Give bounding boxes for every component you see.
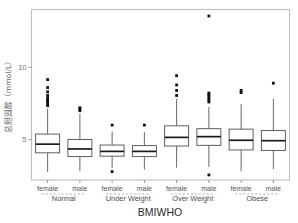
outlier-point [46,97,49,100]
x-tick-label-male-1: male [72,185,87,192]
outlier-point [46,86,49,89]
outlier-point [175,74,178,77]
outlier-point [207,92,210,95]
outlier-point [46,78,49,81]
boxplot-svg: 510 femalemalefemalemalefemalemalefemale… [0,0,298,223]
x-tick-label-female-6: female [231,185,252,192]
x-group-label-under-weight: Under Weight [106,194,151,203]
outlier-point [175,84,178,87]
outlier-point [207,15,210,18]
x-tick-label-female-2: female [102,185,123,192]
x-tick-label-female-0: female [37,185,58,192]
outlier-point [240,89,243,92]
y-tick-label: 5 [22,135,26,144]
x-group-label-over-weight: Over Weight [172,194,213,203]
x-tick-label-male-7: male [266,185,281,192]
box-iqr [165,126,189,146]
x-group-label-normal: Normal [52,194,76,203]
x-tick-label-male-3: male [137,185,152,192]
y-tick-label: 10 [18,63,26,72]
x-tick-label-female-4: female [166,185,187,192]
x-tick-label-male-5: male [201,185,216,192]
boxplot-chart: 510 femalemalefemalemalefemalemalefemale… [0,0,298,223]
x-group-label-obese: Obese [246,194,268,203]
outlier-point [78,106,81,109]
y-axis-title: 总胆固醇（mmol/L） [3,57,13,133]
outlier-point [111,170,114,173]
outlier-point [46,94,49,97]
outlier-point [111,124,114,127]
outlier-point [207,174,210,177]
x-axis-title: BMIWHO [138,206,182,218]
outlier-point [46,90,49,93]
outlier-point [175,89,178,92]
outlier-point [143,124,146,127]
box-iqr [68,140,92,157]
outlier-point [175,94,178,97]
outlier-point [272,82,275,85]
